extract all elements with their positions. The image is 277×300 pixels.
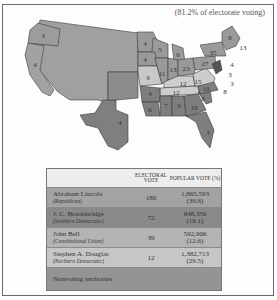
svg-text:4: 4 xyxy=(143,56,147,64)
table-row: Abraham Lincoln(Republican) 180 1,865,59… xyxy=(47,188,221,208)
state-iowa xyxy=(138,52,157,66)
nonvoting-label: Nonvoting territories xyxy=(47,276,221,283)
svg-text:4: 4 xyxy=(33,61,37,69)
candidate-name: John Bell xyxy=(53,230,80,238)
electoral-votes: 180 xyxy=(133,194,169,202)
svg-text:9: 9 xyxy=(146,74,150,82)
header-electoral: ELECTORAL VOTE xyxy=(133,173,169,184)
central-territory xyxy=(108,72,138,100)
party-name: (Republican) xyxy=(53,198,133,205)
candidate-name: J. C. Breckinridge xyxy=(53,210,104,218)
svg-text:6: 6 xyxy=(176,51,180,59)
svg-text:15: 15 xyxy=(195,78,203,86)
table-row: John Bell(Constitutional Union) 39 592,9… xyxy=(47,228,221,248)
svg-text:12: 12 xyxy=(173,89,181,97)
svg-text:27: 27 xyxy=(202,60,210,68)
svg-text:6: 6 xyxy=(148,106,152,114)
candidate-name: Stephen A. Douglas xyxy=(53,250,109,258)
us-election-map: 3 4 4 5 6 4 9 11 13 23 27 35 8 13 4 3 3 … xyxy=(0,0,277,170)
candidate-name: Abraham Lincoln xyxy=(53,190,103,198)
header-popular: POPULAR VOTE (%) xyxy=(169,175,221,182)
table-header: ELECTORAL VOTE POPULAR VOTE (%) xyxy=(47,169,221,188)
svg-text:5: 5 xyxy=(158,46,162,54)
popular-percent: (18.1) xyxy=(187,217,204,225)
svg-text:7: 7 xyxy=(164,102,168,110)
svg-text:4: 4 xyxy=(143,40,147,48)
svg-text:4: 4 xyxy=(118,119,122,127)
svg-text:8: 8 xyxy=(228,34,232,42)
popular-percent: (39.8) xyxy=(187,197,204,205)
svg-text:13: 13 xyxy=(170,66,178,74)
svg-text:12: 12 xyxy=(180,80,188,88)
svg-text:10: 10 xyxy=(191,104,199,112)
svg-text:8: 8 xyxy=(223,88,227,96)
svg-text:3: 3 xyxy=(230,80,234,88)
svg-text:23: 23 xyxy=(183,65,191,73)
svg-text:3: 3 xyxy=(206,129,210,137)
svg-text:35: 35 xyxy=(210,49,218,57)
party-name: (Northern Democratic) xyxy=(53,258,133,265)
popular-percent: (29.5) xyxy=(187,257,204,265)
svg-text:4: 4 xyxy=(148,90,152,98)
svg-text:8: 8 xyxy=(201,95,205,103)
popular-percent: (12.6) xyxy=(187,237,204,245)
electoral-votes: 39 xyxy=(133,234,169,242)
svg-text:4: 4 xyxy=(230,61,234,69)
svg-text:9: 9 xyxy=(177,102,181,110)
party-name: (Southern Democratic) xyxy=(53,218,133,225)
results-table: ELECTORAL VOTE POPULAR VOTE (%) Abraham … xyxy=(46,168,222,291)
svg-text:3: 3 xyxy=(41,32,45,40)
party-name: (Constitutional Union) xyxy=(53,238,133,245)
table-row: Stephen A. Douglas(Northern Democratic) … xyxy=(47,248,221,268)
table-row: J. C. Breckinridge(Southern Democratic) … xyxy=(47,208,221,228)
state-florida xyxy=(186,112,214,148)
svg-text:10: 10 xyxy=(203,85,211,93)
table-footer: Nonvoting territories xyxy=(47,268,221,290)
electoral-votes: 12 xyxy=(133,254,169,262)
svg-text:13: 13 xyxy=(240,44,248,52)
electoral-votes: 72 xyxy=(133,214,169,222)
svg-text:11: 11 xyxy=(159,70,166,78)
svg-text:3: 3 xyxy=(228,71,232,79)
